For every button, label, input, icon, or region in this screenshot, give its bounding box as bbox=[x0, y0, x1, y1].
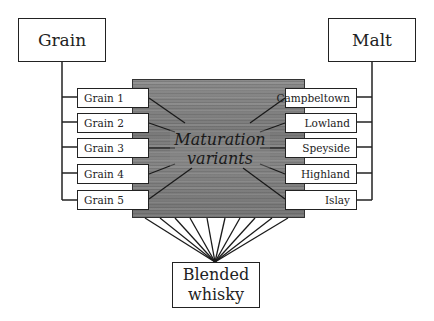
blended-line2: whisky bbox=[188, 285, 244, 305]
grain-item-5: Grain 5 bbox=[77, 190, 149, 210]
maturation-variants-label: Maturation variants bbox=[170, 130, 270, 168]
center-line1: Maturation bbox=[170, 130, 270, 149]
malt-item-label: Islay bbox=[325, 194, 350, 206]
grain-item-1: Grain 1 bbox=[77, 88, 149, 108]
malt-item-islay: Islay bbox=[285, 190, 357, 210]
grain-item-label: Grain 3 bbox=[84, 142, 124, 154]
malt-item-label: Speyside bbox=[302, 142, 350, 154]
grain-item-label: Grain 5 bbox=[84, 194, 124, 206]
grain-item-3: Grain 3 bbox=[77, 138, 149, 158]
grain-item-4: Grain 4 bbox=[77, 164, 149, 184]
grain-box: Grain bbox=[18, 18, 106, 62]
malt-item-label: Highland bbox=[301, 168, 350, 180]
malt-label: Malt bbox=[352, 29, 392, 51]
grain-label: Grain bbox=[38, 29, 86, 51]
malt-item-label: Campbeltown bbox=[276, 92, 350, 104]
grain-item-label: Grain 4 bbox=[84, 168, 124, 180]
malt-item-speyside: Speyside bbox=[285, 138, 357, 158]
grain-item-label: Grain 2 bbox=[84, 117, 124, 129]
malt-item-label: Lowland bbox=[305, 117, 350, 129]
malt-box: Malt bbox=[328, 18, 416, 62]
malt-item-lowland: Lowland bbox=[285, 113, 357, 133]
grain-item-2: Grain 2 bbox=[77, 113, 149, 133]
blended-whisky-box: Blended whisky bbox=[172, 262, 260, 308]
blended-line1: Blended bbox=[183, 265, 250, 285]
center-line2: variants bbox=[170, 149, 270, 168]
malt-item-highland: Highland bbox=[285, 164, 357, 184]
malt-item-campbeltown: Campbeltown bbox=[285, 88, 357, 108]
grain-item-label: Grain 1 bbox=[84, 92, 124, 104]
